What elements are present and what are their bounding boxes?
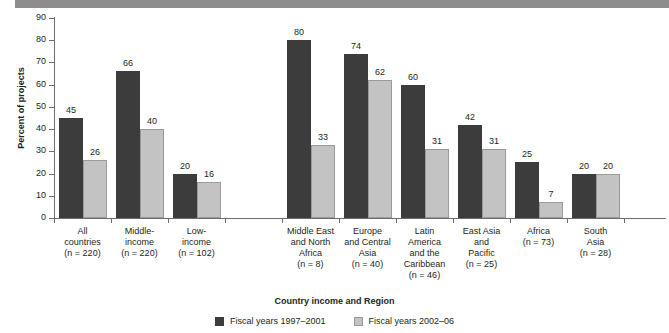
category-label-line: income (162, 237, 231, 248)
bar (83, 160, 107, 218)
y-tick-label: 70 (4, 57, 46, 66)
y-tick (49, 129, 54, 130)
legend-item: Fiscal years 1997–2001 (215, 316, 326, 326)
x-tick (510, 218, 511, 223)
bar-value-label: 31 (419, 137, 455, 146)
bar (116, 71, 140, 218)
bar (368, 80, 392, 218)
y-tick-label: 10 (4, 191, 46, 200)
y-tick (49, 196, 54, 197)
bar (596, 174, 620, 218)
y-tick (49, 40, 54, 41)
y-tick-label: 90 (4, 13, 46, 22)
y-tick-label: 60 (4, 80, 46, 89)
bar (173, 174, 197, 218)
y-tick-label: 40 (4, 124, 46, 133)
x-tick (567, 218, 568, 223)
bar-value-label: 40 (134, 117, 170, 126)
category-label-line: (n = 28) (561, 248, 630, 259)
bar-value-label: 26 (77, 148, 113, 157)
bar-value-label: 31 (476, 137, 512, 146)
bar (59, 118, 83, 218)
y-tick (49, 151, 54, 152)
bar (482, 149, 506, 218)
bar-value-label: 74 (338, 42, 374, 51)
x-tick (453, 218, 454, 223)
bar (572, 174, 596, 218)
bar-value-label: 60 (395, 73, 431, 82)
y-tick-label: 80 (4, 35, 46, 44)
bar (197, 182, 221, 218)
bar-value-label: 62 (362, 68, 398, 77)
y-tick (49, 18, 54, 19)
bar (425, 149, 449, 218)
legend-swatch-light (354, 317, 363, 326)
x-tick (168, 218, 169, 223)
y-axis-line (54, 17, 55, 219)
category-label-line: (n = 102) (162, 248, 231, 259)
legend-item: Fiscal years 2002–06 (354, 316, 455, 326)
category-label-line: Pacific (447, 248, 516, 259)
y-tick (49, 62, 54, 63)
bar-value-label: 42 (452, 113, 488, 122)
category-label-line: Asia (561, 237, 630, 248)
category-label-line: (n = 25) (447, 259, 516, 270)
y-tick (49, 85, 54, 86)
category-label-line: Low- (162, 226, 231, 237)
category-label: Low-income(n = 102) (162, 226, 231, 259)
bar (344, 54, 368, 218)
bar (140, 129, 164, 218)
legend-swatch-dark (215, 317, 224, 326)
bar-value-label: 45 (53, 106, 89, 115)
x-tick (225, 218, 226, 223)
bar-value-label: 25 (509, 150, 545, 159)
x-tick (111, 218, 112, 223)
y-tick-label: 0 (4, 213, 46, 222)
y-tick-label: 20 (4, 169, 46, 178)
category-label: SouthAsia(n = 28) (561, 226, 630, 259)
bar (401, 85, 425, 218)
bar-chart: Percent of projects 0102030405060708090 … (0, 0, 669, 333)
bar-value-label: 16 (191, 170, 227, 179)
legend-label: Fiscal years 2002–06 (369, 316, 455, 326)
x-tick (54, 218, 55, 223)
bar-value-label: 20 (590, 162, 626, 171)
category-label-line: (n = 46) (390, 270, 459, 281)
y-tick (49, 174, 54, 175)
bar-value-label: 66 (110, 59, 146, 68)
bar (539, 202, 563, 218)
chart-legend: Fiscal years 1997–2001Fiscal years 2002–… (0, 316, 669, 326)
bar (311, 145, 335, 218)
bar-value-label: 7 (533, 190, 569, 199)
category-label-line: South (561, 226, 630, 237)
x-tick (339, 218, 340, 223)
x-axis-line (54, 218, 666, 219)
x-tick (396, 218, 397, 223)
x-tick (624, 218, 625, 223)
y-tick-label: 30 (4, 146, 46, 155)
bar-value-label: 33 (305, 133, 341, 142)
x-axis-title: Country income and Region (0, 296, 669, 306)
bar (287, 40, 311, 218)
y-tick-label: 50 (4, 102, 46, 111)
bar-value-label: 80 (281, 28, 317, 37)
x-tick (282, 218, 283, 223)
legend-label: Fiscal years 1997–2001 (230, 316, 326, 326)
bar-value-label: 20 (167, 162, 203, 171)
